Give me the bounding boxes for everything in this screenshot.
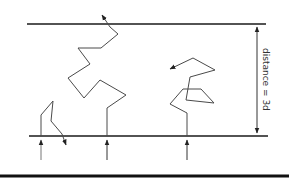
distance-label: distance = 3d [261, 48, 271, 111]
walker-path-right [170, 58, 215, 136]
walker-path-left [41, 101, 66, 145]
diffusion-diagram: distance = 3d [0, 0, 289, 178]
walker-path-middle [68, 15, 126, 136]
